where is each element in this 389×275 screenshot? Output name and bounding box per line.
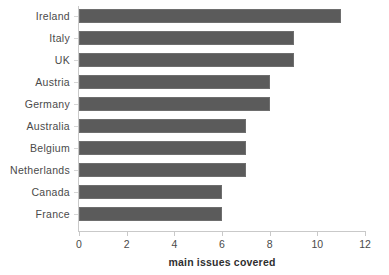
y-axis-tick-label: Netherlands (10, 163, 70, 177)
y-axis-tick-mark (74, 148, 78, 149)
y-axis-tick-label: Germany (25, 97, 70, 111)
bar (79, 207, 222, 221)
x-axis-tick-label: 12 (350, 238, 380, 250)
x-axis-tick-mark (270, 232, 271, 236)
y-axis-tick-mark (74, 60, 78, 61)
x-axis-tick-label: 4 (159, 238, 189, 250)
bar (79, 31, 294, 45)
y-axis-tick-label: Austria (35, 75, 70, 89)
x-axis-tick-mark (174, 232, 175, 236)
y-axis-tick-mark (74, 38, 78, 39)
x-axis-tick-label: 2 (112, 238, 142, 250)
y-axis-tick-mark (74, 170, 78, 171)
bar (79, 141, 246, 155)
x-axis-tick-label: 10 (302, 238, 332, 250)
y-axis-tick-mark (74, 16, 78, 17)
x-axis-tick-mark (222, 232, 223, 236)
x-axis-tick-mark (79, 232, 80, 236)
y-axis-tick-label: Italy (49, 31, 70, 45)
x-axis-tick-mark (365, 232, 366, 236)
y-axis-tick-label: Belgium (30, 141, 70, 155)
x-axis-tick-mark (127, 232, 128, 236)
y-axis-tick-mark (74, 104, 78, 105)
x-axis-tick-label: 0 (64, 238, 94, 250)
y-axis-tick-label: Ireland (36, 9, 70, 23)
y-axis-tick-label: Australia (26, 119, 70, 133)
bar (79, 9, 341, 23)
y-axis-tick-mark (74, 82, 78, 83)
bar (79, 53, 294, 67)
x-axis-tick-mark (317, 232, 318, 236)
y-axis-tick-label: UK (55, 53, 70, 67)
y-axis-category-labels: IrelandItalyUKAustriaGermanyAustraliaBel… (0, 9, 74, 229)
y-axis-tick-label: France (36, 207, 70, 221)
bar (79, 97, 270, 111)
bar (79, 185, 222, 199)
x-axis-title: main issues covered (79, 256, 365, 268)
plot-area (79, 9, 365, 229)
horizontal-bar-chart: IrelandItalyUKAustriaGermanyAustraliaBel… (0, 0, 389, 275)
y-axis-tick-mark (74, 126, 78, 127)
bar (79, 163, 246, 177)
x-axis-tick-label: 6 (207, 238, 237, 250)
y-axis-tick-mark (74, 214, 78, 215)
y-axis-tick-label: Canada (31, 185, 70, 199)
bar (79, 119, 246, 133)
y-axis-tick-mark (74, 192, 78, 193)
x-axis-tick-label: 8 (255, 238, 285, 250)
bar (79, 75, 270, 89)
